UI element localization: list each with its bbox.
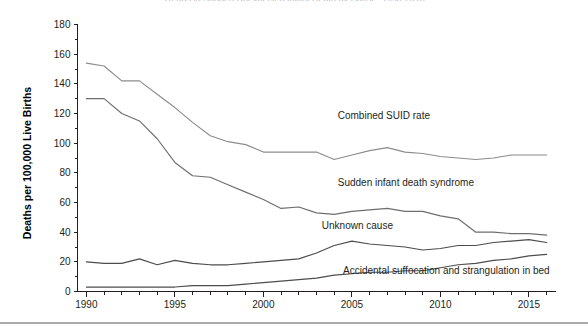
series-annotations: Combined SUID rateSudden infant death sy… — [322, 110, 550, 275]
y-tick-label: 20 — [59, 256, 71, 267]
series-line-2 — [86, 240, 546, 265]
y-tick-label: 100 — [54, 138, 71, 149]
series-label-1: Sudden infant death syndrome — [338, 177, 475, 188]
y-tick-label: 160 — [54, 49, 71, 60]
series-line-0 — [86, 63, 546, 159]
series-lines — [86, 63, 546, 287]
line-chart: 020406080100120140160180 199019952000200… — [0, 0, 588, 335]
series-line-1 — [86, 99, 546, 235]
y-tick-label: 0 — [65, 286, 71, 297]
figure-container: Trends in Sudden Unexpected Infant Death… — [0, 0, 588, 335]
x-tick-label: 2015 — [518, 299, 541, 310]
x-tick-label: 1995 — [164, 299, 187, 310]
y-tick-label: 40 — [59, 227, 71, 238]
x-tick-label: 2005 — [341, 299, 364, 310]
y-tick-label: 60 — [59, 197, 71, 208]
series-label-0: Combined SUID rate — [338, 110, 431, 121]
x-tick-label: 1990 — [75, 299, 98, 310]
x-tick-label: 2010 — [429, 299, 452, 310]
x-axis: 199019952000200520102015 — [75, 292, 555, 310]
y-tick-label: 80 — [59, 167, 71, 178]
y-tick-label: 120 — [54, 108, 71, 119]
series-label-2: Unknown cause — [322, 220, 394, 231]
figure-title: Trends in Sudden Unexpected Infant Death… — [0, 0, 588, 1]
x-tick-label: 2000 — [252, 299, 275, 310]
y-tick-label: 180 — [54, 19, 71, 30]
y-axis-title: Deaths per 100,000 Live Births — [21, 87, 33, 239]
series-label-3: Accidental suffocation and strangulation… — [343, 265, 550, 276]
footer-divider — [0, 322, 588, 324]
y-axis: 020406080100120140160180 — [54, 19, 78, 297]
y-tick-label: 140 — [54, 78, 71, 89]
